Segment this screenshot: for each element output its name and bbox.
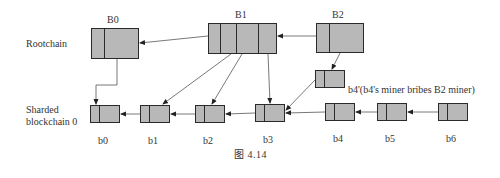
diagram-canvas: Rootchain Sharded blockchain 0 B0 B1 B2 … xyxy=(0,0,500,178)
arrow-b3-to-b2 xyxy=(226,113,255,114)
arrow-B1-to-b1 xyxy=(163,54,231,104)
figure-caption: 图 4.14 xyxy=(234,149,267,160)
arrow-B1-to-b3 xyxy=(268,54,270,103)
arrow-b4prime-to-b3 xyxy=(286,80,315,110)
arrow-B1-to-b2 xyxy=(212,54,242,104)
arrow-b4-to-b3 xyxy=(286,112,325,113)
arrow-B1-to-B0 xyxy=(140,36,208,43)
arrow-B2-to-b4prime xyxy=(332,53,340,69)
arrow-B0-to-b0 xyxy=(96,59,117,104)
